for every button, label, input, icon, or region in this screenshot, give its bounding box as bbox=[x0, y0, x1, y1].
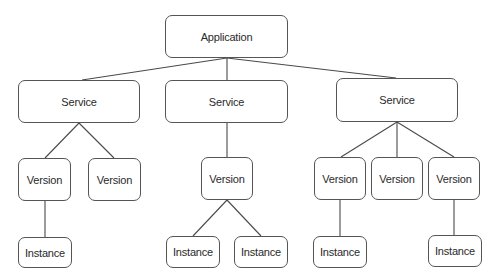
instance-node-i3: Instance bbox=[234, 236, 288, 268]
node-label: Service bbox=[379, 94, 414, 106]
node-label: Instance bbox=[320, 246, 360, 258]
version-node-v4: Version bbox=[314, 157, 366, 200]
node-label: Version bbox=[209, 173, 244, 185]
version-node-v6: Version bbox=[428, 157, 480, 200]
node-label: Instance bbox=[241, 246, 281, 258]
node-label: Version bbox=[379, 173, 414, 185]
service-node-svc2: Service bbox=[165, 80, 288, 123]
node-label: Service bbox=[61, 96, 96, 108]
version-node-v2: Version bbox=[88, 158, 141, 201]
edge-svc3-v6 bbox=[397, 122, 454, 157]
node-label: Instance bbox=[173, 246, 213, 258]
node-label: Instance bbox=[435, 245, 475, 257]
node-label: Version bbox=[436, 173, 471, 185]
service-node-svc1: Service bbox=[18, 80, 140, 123]
edge-app-svc1 bbox=[82, 58, 227, 80]
instance-node-i2: Instance bbox=[166, 236, 220, 268]
version-node-v3: Version bbox=[201, 157, 253, 200]
version-node-v1: Version bbox=[18, 158, 71, 201]
hierarchy-diagram: ApplicationServiceServiceServiceVersionV… bbox=[0, 0, 495, 279]
node-label: Application bbox=[201, 31, 253, 43]
node-label: Version bbox=[97, 174, 132, 186]
service-node-svc3: Service bbox=[336, 78, 458, 122]
node-label: Version bbox=[322, 173, 357, 185]
instance-node-i4: Instance bbox=[313, 236, 367, 268]
node-label: Instance bbox=[25, 247, 65, 259]
application-node-app: Application bbox=[165, 15, 288, 58]
version-node-v5: Version bbox=[371, 157, 423, 200]
edge-svc1-v2 bbox=[79, 123, 114, 158]
node-label: Service bbox=[209, 96, 244, 108]
edge-v3-i2 bbox=[193, 200, 227, 236]
edge-svc3-v4 bbox=[341, 122, 397, 157]
edge-v3-i3 bbox=[227, 200, 261, 236]
edge-svc1-v1 bbox=[45, 123, 79, 158]
edge-app-svc3 bbox=[227, 58, 396, 78]
instance-node-i1: Instance bbox=[18, 237, 72, 268]
instance-node-i5: Instance bbox=[428, 235, 482, 267]
node-label: Version bbox=[27, 174, 62, 186]
